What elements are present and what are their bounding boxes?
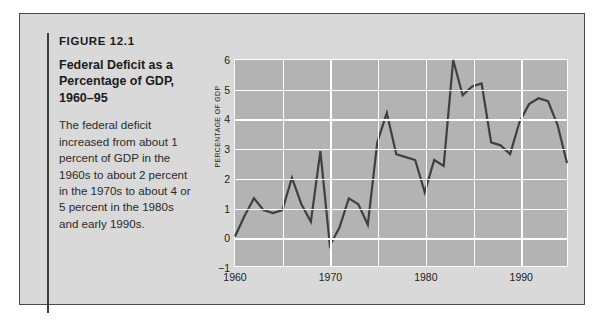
chart-container: PERCENTAGE OF GDP 6543210−11960197019801… <box>206 47 588 299</box>
gridline-vertical <box>474 60 475 266</box>
gridline-horizontal <box>235 238 567 239</box>
x-axis-tick-label: 1980 <box>414 271 437 283</box>
figure-panel: FIGURE 12.1 Federal Deficit as a Percent… <box>19 13 585 305</box>
x-axis-tick-label: 1960 <box>223 271 246 283</box>
figure-root: FIGURE 12.1 Federal Deficit as a Percent… <box>0 0 602 325</box>
y-axis-tick-label: 2 <box>224 173 230 185</box>
figure-title: Federal Deficit as a Percentage of GDP, … <box>59 57 192 107</box>
figure-number: FIGURE 12.1 <box>59 35 192 48</box>
y-axis-tick-label: 5 <box>224 84 230 96</box>
gridline-vertical <box>426 60 427 266</box>
gridline-vertical <box>521 60 522 266</box>
y-axis-title: PERCENTAGE OF GDP <box>214 62 221 192</box>
gridline-horizontal <box>235 119 567 120</box>
gridline-horizontal <box>235 149 567 150</box>
x-axis-tick-label: 1990 <box>510 271 533 283</box>
y-axis-tick-label: 4 <box>224 113 230 125</box>
gridline-vertical <box>283 60 284 266</box>
y-axis-tick-label: 1 <box>224 203 230 215</box>
y-axis-tick-label: 3 <box>224 143 230 155</box>
y-axis-tick-label: 6 <box>224 54 230 66</box>
figure-description: The federal deficit increased from about… <box>59 117 192 232</box>
gridline-horizontal <box>235 90 567 91</box>
gridline-vertical <box>330 60 331 266</box>
gridline-vertical <box>378 60 379 266</box>
gridline-horizontal <box>235 179 567 180</box>
figure-caption: FIGURE 12.1 Federal Deficit as a Percent… <box>47 33 192 313</box>
x-axis-tick-label: 1970 <box>319 271 342 283</box>
y-axis-tick-label: 0 <box>224 232 230 244</box>
gridline-horizontal <box>235 209 567 210</box>
plot-area: 6543210−11960197019801990 <box>234 59 568 267</box>
series-polyline <box>235 60 567 245</box>
